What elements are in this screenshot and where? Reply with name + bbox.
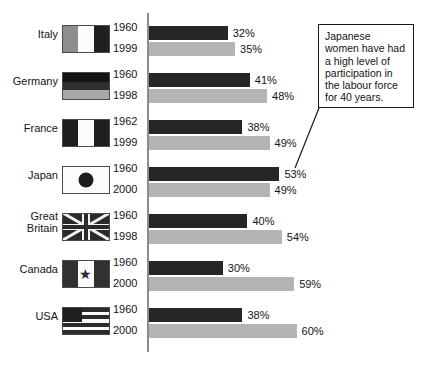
bar-value-label-late: 49% bbox=[275, 183, 297, 197]
country-label: USA bbox=[0, 310, 58, 322]
bar-late bbox=[149, 324, 297, 338]
bar-early bbox=[149, 167, 279, 181]
chart-row: Japan1960200053%49% bbox=[0, 154, 426, 201]
flag-france-icon bbox=[62, 119, 110, 147]
bar-early bbox=[149, 73, 250, 87]
year-label-early: 1960 bbox=[113, 68, 143, 80]
country-label-line: Britain bbox=[0, 222, 58, 234]
bar-value-label-late: 60% bbox=[302, 324, 324, 338]
year-label-late: 1998 bbox=[113, 230, 143, 242]
year-label-early: 1962 bbox=[113, 115, 143, 127]
country-label: GreatBritain bbox=[0, 210, 58, 234]
bar-late bbox=[149, 277, 294, 291]
bar-value-label-early: 40% bbox=[252, 214, 274, 228]
year-label-early: 1960 bbox=[113, 303, 143, 315]
bar-value-label-late: 54% bbox=[287, 230, 309, 244]
bar-value-label-early: 30% bbox=[228, 261, 250, 275]
bar-value-label-early: 38% bbox=[247, 308, 269, 322]
year-label-late: 1999 bbox=[113, 42, 143, 54]
bar-value-label-early: 41% bbox=[255, 73, 277, 87]
year-labels: 19601998 bbox=[113, 209, 143, 242]
year-labels: 19602000 bbox=[113, 162, 143, 195]
country-label-line: Germany bbox=[0, 75, 58, 87]
flag-japan-icon bbox=[62, 166, 110, 194]
flag-great-britain-icon bbox=[62, 213, 110, 241]
year-label-late: 2000 bbox=[113, 183, 143, 195]
bar-early bbox=[149, 26, 228, 40]
bar-early bbox=[149, 120, 242, 134]
chart-row: Canada★1960200030%59% bbox=[0, 248, 426, 295]
country-label-line: Great bbox=[0, 210, 58, 222]
bar-late bbox=[149, 136, 270, 150]
bar-late bbox=[149, 89, 267, 103]
country-label-line: USA bbox=[0, 310, 58, 322]
bar-late bbox=[149, 42, 235, 56]
bar-early bbox=[149, 308, 242, 322]
bar-early bbox=[149, 214, 247, 228]
country-label-line: France bbox=[0, 122, 58, 134]
flag-usa-icon bbox=[62, 307, 110, 335]
flag-germany-icon bbox=[62, 72, 110, 100]
year-labels: 19601998 bbox=[113, 68, 143, 101]
year-label-early: 1960 bbox=[113, 21, 143, 33]
chart-row: France1962199938%49% bbox=[0, 107, 426, 154]
year-label-early: 1960 bbox=[113, 209, 143, 221]
year-labels: 19621999 bbox=[113, 115, 143, 148]
year-labels: 19601999 bbox=[113, 21, 143, 54]
country-label: Italy bbox=[0, 28, 58, 40]
flag-italy-icon bbox=[62, 25, 110, 53]
bar-value-label-early: 32% bbox=[233, 26, 255, 40]
year-label-late: 2000 bbox=[113, 324, 143, 336]
country-label: Japan bbox=[0, 169, 58, 181]
flag-canada-icon: ★ bbox=[62, 260, 110, 288]
bar-value-label-early: 38% bbox=[247, 120, 269, 134]
chart-figure: Italy1960199932%35%Germany1960199841%48%… bbox=[0, 0, 426, 368]
country-label-line: Japan bbox=[0, 169, 58, 181]
bar-value-label-late: 35% bbox=[240, 42, 262, 56]
annotation-text: Japanese women have had a high level of … bbox=[325, 30, 405, 103]
bar-late bbox=[149, 230, 282, 244]
bar-early bbox=[149, 261, 223, 275]
chart-row: GreatBritain1960199840%54% bbox=[0, 201, 426, 248]
year-label-late: 1998 bbox=[113, 89, 143, 101]
bar-late bbox=[149, 183, 270, 197]
annotation-callout: Japanese women have had a high level of … bbox=[318, 24, 414, 108]
bar-value-label-late: 59% bbox=[299, 277, 321, 291]
chart-row: USA1960200038%60% bbox=[0, 295, 426, 342]
year-label-late: 2000 bbox=[113, 277, 143, 289]
country-label: Canada bbox=[0, 263, 58, 275]
year-label-early: 1960 bbox=[113, 256, 143, 268]
year-labels: 19602000 bbox=[113, 303, 143, 336]
country-label-line: Italy bbox=[0, 28, 58, 40]
annotation-leader-line bbox=[285, 100, 330, 175]
year-labels: 19602000 bbox=[113, 256, 143, 289]
year-label-late: 1999 bbox=[113, 136, 143, 148]
country-label: Germany bbox=[0, 75, 58, 87]
country-label: France bbox=[0, 122, 58, 134]
country-label-line: Canada bbox=[0, 263, 58, 275]
year-label-early: 1960 bbox=[113, 162, 143, 174]
